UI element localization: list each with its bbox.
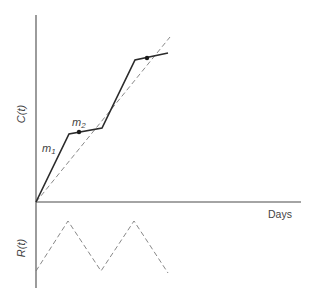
- r-axis-label: R(t): [15, 239, 27, 258]
- marker-point-1: [77, 130, 81, 134]
- slope-label-m1: m1: [42, 142, 56, 156]
- r-curve: [36, 221, 168, 273]
- marker-point-2: [145, 56, 149, 60]
- x-axis-label: Days: [268, 208, 292, 220]
- diagram-canvas: m1 m2 C(t) R(t) Days: [0, 0, 315, 301]
- c-axis-label: C(t): [15, 105, 27, 124]
- slope-label-m2: m2: [72, 116, 86, 130]
- c-curve: [36, 53, 168, 202]
- trend-line-dashed: [36, 37, 170, 202]
